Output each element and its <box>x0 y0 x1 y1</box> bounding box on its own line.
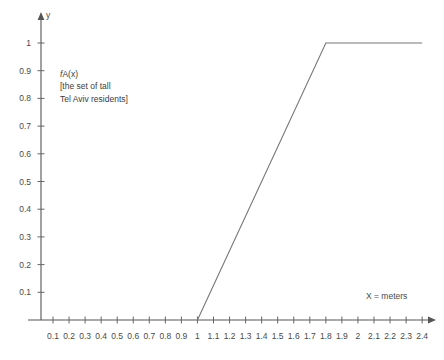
x-tick-label: 1.6 <box>288 332 300 341</box>
x-tick-label: 2.4 <box>416 332 428 341</box>
y-tick-label: 0.5 <box>0 177 31 186</box>
annotation-line-3: Tel Aviv residents] <box>60 93 128 105</box>
x-tick-label: 1.3 <box>240 332 252 341</box>
x-tick-label: 1.2 <box>224 332 236 341</box>
x-tick-label: 1.1 <box>208 332 220 341</box>
x-tick-label: 2.1 <box>368 332 380 341</box>
x-tick-label: 0.5 <box>111 332 123 341</box>
x-tick-label: 0.8 <box>159 332 171 341</box>
x-axis-arrow-icon <box>428 317 436 324</box>
x-tick-label: 0.3 <box>79 332 91 341</box>
y-tick-label: 1 <box>0 39 31 48</box>
x-tick-label: 1.4 <box>256 332 268 341</box>
y-tick-label: 0.2 <box>0 260 31 269</box>
y-axis-title: y <box>46 11 50 20</box>
x-tick-label: 0.7 <box>143 332 155 341</box>
x-tick-label: 2.3 <box>400 332 412 341</box>
x-tick-label: 1.7 <box>304 332 316 341</box>
x-axis <box>28 317 436 324</box>
y-tick-label: 0.4 <box>0 205 31 214</box>
x-tick-label: 0.2 <box>63 332 75 341</box>
x-tick-label: 1.9 <box>336 332 348 341</box>
y-axis-arrow-icon <box>38 12 45 20</box>
annotation-function-arg: (x) <box>68 69 78 79</box>
y-tick-label: 0.6 <box>0 150 31 159</box>
x-tick-label: 1.5 <box>272 332 284 341</box>
y-tick-label: 0.8 <box>0 94 31 103</box>
x-axis-title: X = meters <box>366 292 407 301</box>
y-tick-label: 0.3 <box>0 233 31 242</box>
x-tick-label: 1 <box>195 332 200 341</box>
membership-function-chart: 0.10.20.30.40.50.60.70.80.911.11.21.31.4… <box>0 0 444 360</box>
annotation-line-2: [the set of tall <box>60 80 128 92</box>
y-tick-label: 0.7 <box>0 122 31 131</box>
x-tick-label: 0.1 <box>47 332 59 341</box>
series-line-fa-of-x <box>197 43 422 320</box>
x-tick-label: 0.9 <box>175 332 187 341</box>
y-tick-label: 0.1 <box>0 288 31 297</box>
y-tick-label: 0.9 <box>0 66 31 75</box>
y-axis <box>38 12 45 320</box>
x-tick-label: 0.4 <box>95 332 107 341</box>
x-tick-label: 1.8 <box>320 332 332 341</box>
membership-function-annotation: fA(x) [the set of tall Tel Aviv resident… <box>60 68 128 105</box>
x-tick-label: 2 <box>356 332 361 341</box>
x-tick-label: 2.2 <box>384 332 396 341</box>
annotation-line-1: fA(x) <box>60 68 128 80</box>
plot-canvas <box>0 0 444 360</box>
x-tick-label: 0.6 <box>127 332 139 341</box>
